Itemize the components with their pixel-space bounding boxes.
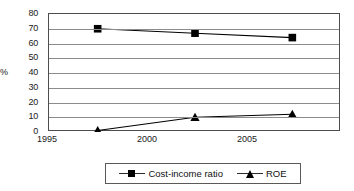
square-marker-icon (119, 169, 145, 179)
data-point-square (289, 34, 297, 42)
line-chart: 80 70 60 50 40 30 20 10 0 % 1995 2000 20… (0, 0, 354, 191)
y-tick-30: 30 (8, 82, 38, 92)
y-tick-60: 60 (8, 38, 38, 48)
data-point-square (191, 29, 199, 37)
gridline-30 (49, 88, 339, 89)
y-tick-40: 40 (8, 67, 38, 77)
x-tick-1995: 1995 (24, 134, 70, 144)
chart-legend: Cost-income ratio ROE (105, 163, 301, 184)
y-tick-50: 50 (8, 52, 38, 62)
y-tick-70: 70 (8, 23, 38, 33)
x-tick-2000: 2000 (124, 134, 170, 144)
legend-item-cost-income-ratio: Cost-income ratio (119, 168, 222, 179)
triangle-marker-icon (237, 169, 263, 179)
y-tick-80: 80 (8, 8, 38, 18)
gridline-60 (49, 44, 339, 45)
y-tick-20: 20 (8, 97, 38, 107)
gridline-20 (49, 103, 339, 104)
gridline-70 (49, 29, 339, 30)
data-point-triangle (93, 126, 102, 132)
gridline-50 (49, 58, 339, 59)
y-tick-10: 10 (8, 111, 38, 121)
gridline-40 (49, 73, 339, 74)
x-tick-2005: 2005 (224, 134, 270, 144)
series-roe (93, 110, 297, 132)
gridline-10 (49, 117, 339, 118)
legend-item-roe: ROE (237, 168, 287, 179)
plot-area (48, 13, 340, 131)
series-cost-income-ratio (94, 25, 296, 41)
y-axis-label: % (0, 67, 8, 77)
legend-label-roe: ROE (266, 168, 287, 179)
legend-label-cost-income-ratio: Cost-income ratio (148, 168, 222, 179)
